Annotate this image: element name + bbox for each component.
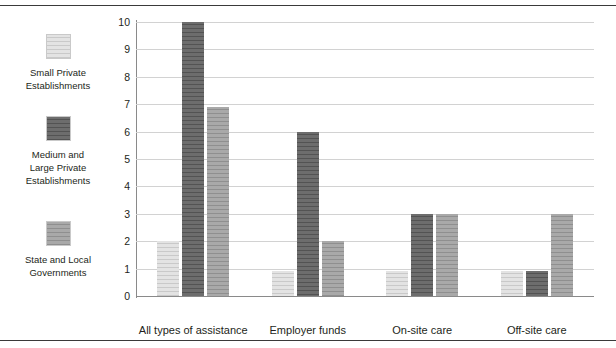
bar-3-0[interactable] [501, 271, 523, 296]
bar-group-0 [136, 22, 251, 296]
bar-2-2[interactable] [436, 214, 458, 296]
x-axis-category-label-2: On-site care [365, 324, 480, 337]
bar-0-0[interactable] [157, 241, 179, 296]
bar-3-2[interactable] [551, 214, 573, 296]
top-divider-rule [0, 5, 616, 6]
bar-2-0[interactable] [386, 271, 408, 296]
bottom-divider-rule [0, 340, 616, 341]
y-axis-tick-1: 1 [104, 264, 130, 274]
legend-label-small-private: Small Private Establishments [6, 66, 110, 92]
y-axis-tick-7: 7 [104, 99, 130, 109]
y-axis-tick-0: 0 [104, 291, 130, 301]
x-axis-category-label-3: Off-site care [480, 324, 595, 337]
legend-item-small-private[interactable]: Small Private Establishments [6, 34, 110, 92]
y-axis-tick-10: 10 [104, 17, 130, 27]
bar-1-2[interactable] [322, 241, 344, 296]
y-axis-tick-4: 4 [104, 181, 130, 191]
legend-label-state-local: State and Local Governments [6, 253, 110, 279]
bar-0-1[interactable] [182, 22, 204, 296]
legend-item-state-local[interactable]: State and Local Governments [6, 221, 110, 279]
legend-label-line: Large Private [6, 161, 110, 174]
plot-area: All types of assistanceEmployer fundsOn-… [136, 22, 594, 296]
y-axis-tick-9: 9 [104, 44, 130, 54]
bar-chart-figure: Small Private Establishments Medium and … [0, 0, 616, 348]
bar-group-1 [251, 22, 366, 296]
x-axis-baseline [136, 296, 594, 297]
bar-3-1[interactable] [526, 271, 548, 296]
legend-swatch-state-local [46, 221, 71, 246]
y-axis-tick-6: 6 [104, 127, 130, 137]
legend-label-line: State and Local [6, 253, 110, 266]
legend-swatch-medium-large-private [46, 116, 71, 141]
bar-2-1[interactable] [411, 214, 433, 296]
legend-item-medium-large-private[interactable]: Medium and Large Private Establishments [6, 116, 110, 187]
bar-1-0[interactable] [272, 271, 294, 296]
y-axis-tick-5: 5 [104, 154, 130, 164]
x-axis-category-label-1: Employer funds [251, 324, 366, 337]
bar-0-2[interactable] [207, 107, 229, 296]
legend-label-line: Governments [6, 266, 110, 279]
chart-legend: Small Private Establishments Medium and … [6, 16, 110, 316]
bar-group-2 [365, 22, 480, 296]
x-axis-category-label-0: All types of assistance [136, 324, 251, 337]
y-axis-tick-3: 3 [104, 209, 130, 219]
legend-label-line: Small Private [6, 66, 110, 79]
legend-swatch-small-private [46, 34, 71, 59]
y-axis-tick-2: 2 [104, 236, 130, 246]
y-axis-tick-8: 8 [104, 72, 130, 82]
legend-label-medium-large-private: Medium and Large Private Establishments [6, 148, 110, 187]
bar-1-1[interactable] [297, 132, 319, 296]
legend-label-line: Medium and [6, 148, 110, 161]
y-axis-tick-labels: 012345678910 [100, 22, 130, 296]
legend-label-line: Establishments [6, 174, 110, 187]
legend-label-line: Establishments [6, 79, 110, 92]
bar-group-3 [480, 22, 595, 296]
